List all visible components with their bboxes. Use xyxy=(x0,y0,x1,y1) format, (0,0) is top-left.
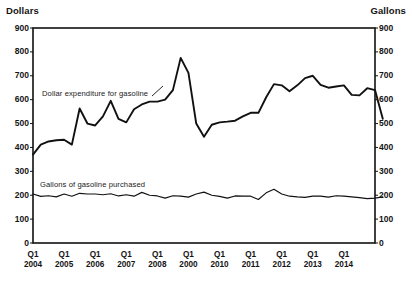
gasoline-expenditure-chart: Dollars Gallons 900800700600500400300200… xyxy=(0,0,412,283)
dollar-expenditure-line xyxy=(33,58,383,155)
plot-area xyxy=(0,0,412,283)
annotation-leader-line xyxy=(152,86,163,96)
gallons-purchased-line xyxy=(33,189,383,199)
dollar-series-annotation: Dollar expenditure for gasoline xyxy=(42,89,148,98)
series-lines xyxy=(33,58,383,200)
gallons-series-annotation: Gallons of gasoline purchased xyxy=(40,180,145,189)
